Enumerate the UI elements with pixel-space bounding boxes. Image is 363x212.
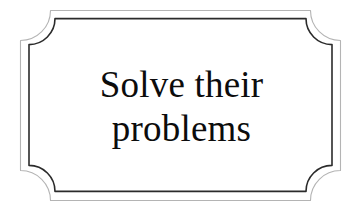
plaque-text-line-1: Solve their [100, 66, 264, 103]
plaque-text-block: Solve their problems [30, 20, 333, 192]
plaque-scene: Solve their problems [0, 0, 363, 212]
plaque-text-line-2: problems [112, 110, 251, 147]
